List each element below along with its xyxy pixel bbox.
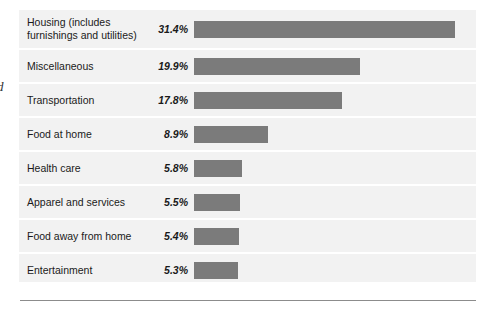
bar-track	[194, 152, 476, 184]
table-row: Transportation 17.8%	[19, 84, 476, 118]
bar-track	[194, 220, 476, 252]
bar	[194, 228, 239, 245]
bar-track	[194, 10, 476, 48]
bar	[194, 126, 268, 143]
category-label: Housing (includes furnishings and utilit…	[27, 10, 155, 48]
value-label: 8.9%	[155, 118, 188, 150]
table-row: Miscellaneous 19.9%	[19, 50, 476, 84]
value-label: 5.5%	[155, 186, 188, 218]
category-label: Food at home	[27, 118, 155, 150]
category-label: Miscellaneous	[27, 50, 155, 82]
table-row: Health care 5.8%	[19, 152, 476, 186]
margin-cut-off-glyph: d	[0, 79, 4, 95]
bar	[194, 21, 455, 38]
bottom-divider	[20, 300, 476, 301]
bar-track	[194, 50, 476, 82]
bar	[194, 194, 240, 211]
bar	[194, 92, 342, 109]
horizontal-bar-chart: Housing (includes furnishings and utilit…	[19, 10, 476, 291]
bar-track	[194, 118, 476, 150]
value-label: 19.9%	[155, 50, 188, 82]
table-row: Food away from home 5.4%	[19, 220, 476, 254]
bar	[194, 58, 360, 75]
value-label: 17.8%	[155, 84, 188, 116]
category-label: Health care	[27, 152, 155, 184]
category-label: Food away from home	[27, 220, 155, 252]
category-label: Transportation	[27, 84, 155, 116]
category-label: Apparel and services	[27, 186, 155, 218]
value-label: 5.8%	[155, 152, 188, 184]
bar	[194, 262, 238, 279]
bar-track	[194, 186, 476, 218]
table-row: Food at home 8.9%	[19, 118, 476, 152]
panel-bottom-spacer	[19, 282, 476, 291]
value-label: 31.4%	[155, 10, 188, 48]
bar-track	[194, 84, 476, 116]
bar	[194, 160, 242, 177]
table-row: Apparel and services 5.5%	[19, 186, 476, 220]
table-row: Housing (includes furnishings and utilit…	[19, 10, 476, 50]
value-label: 5.4%	[155, 220, 188, 252]
